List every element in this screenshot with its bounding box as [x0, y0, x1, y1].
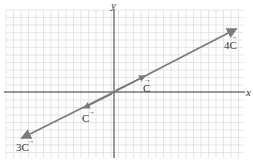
vector-arrow-icon: → [28, 138, 35, 145]
vector-arrow-icon: → [231, 34, 238, 41]
y-axis-label: y [111, 0, 116, 11]
grid-lines [6, 10, 243, 158]
label-c: →C [143, 83, 150, 94]
vector-c-arrow [116, 76, 145, 90]
vector-arrow-icon: → [88, 109, 95, 116]
coordinate-grid [0, 0, 253, 160]
vector-arrow-icon: → [144, 77, 151, 84]
axes [4, 9, 245, 158]
x-axis-label: x [246, 87, 251, 98]
label-4c: 4→C [224, 40, 237, 51]
label-neg-c: −C→ [82, 113, 89, 124]
label-neg-3c: −3C→ [16, 142, 29, 153]
vectors [22, 29, 236, 138]
